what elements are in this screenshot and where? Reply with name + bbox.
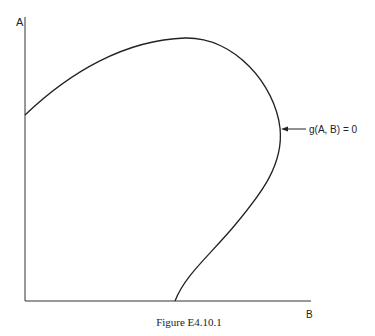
curve-annotation: g(A, B) = 0: [309, 124, 358, 135]
x-axis-label: B: [306, 309, 313, 320]
arrow-head-icon: [281, 127, 288, 132]
constraint-curve: [25, 38, 280, 301]
figure-caption: Figure E4.10.1: [156, 316, 222, 328]
y-axis-label: A: [16, 16, 24, 28]
figure-canvas: A B g(A, B) = 0 Figure E4.10.1: [0, 0, 375, 336]
